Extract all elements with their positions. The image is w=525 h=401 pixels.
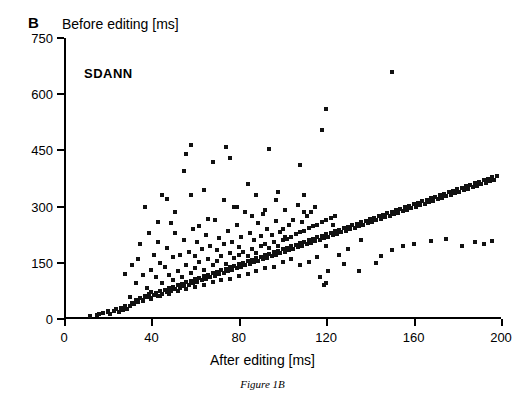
figure-panel: B Before editing [ms] SDANN 015030045060… [0, 0, 525, 401]
data-point [318, 275, 322, 279]
data-point [145, 286, 149, 290]
x-tick-mark [239, 319, 241, 326]
data-point [252, 238, 256, 242]
data-point [149, 268, 153, 272]
data-point [193, 254, 197, 258]
data-point [300, 220, 304, 224]
data-point [261, 212, 265, 216]
data-point [200, 247, 204, 251]
data-point [460, 244, 464, 248]
data-point [208, 244, 212, 248]
data-point [184, 263, 188, 267]
data-point [123, 272, 127, 276]
x-tick-label: 160 [403, 330, 425, 345]
data-point [171, 278, 175, 282]
data-point [357, 269, 361, 273]
data-point [337, 253, 341, 257]
data-point [248, 231, 252, 235]
data-point [243, 210, 247, 214]
data-point [160, 281, 164, 285]
data-point [163, 265, 167, 269]
data-point [237, 245, 241, 249]
data-point [184, 152, 188, 156]
y-tick-mark [57, 93, 64, 95]
data-point [173, 231, 177, 235]
data-point [265, 227, 269, 231]
data-point [152, 253, 156, 257]
x-axis-title: After editing [ms] [0, 352, 525, 368]
data-point [324, 107, 328, 111]
panel-title: Before editing [ms] [62, 16, 179, 32]
data-point [189, 271, 193, 275]
data-point [270, 233, 274, 237]
data-point [182, 169, 186, 173]
data-point [237, 274, 241, 278]
data-point [165, 197, 169, 201]
data-point [315, 255, 319, 259]
y-tick-label: 450 [31, 143, 53, 158]
data-point [171, 255, 175, 259]
data-point [193, 266, 197, 270]
y-tick-mark [57, 262, 64, 264]
y-axis-line [64, 38, 66, 319]
y-tick-mark [57, 37, 64, 39]
data-point [320, 128, 324, 132]
data-point [219, 278, 223, 282]
data-point [176, 289, 180, 293]
data-point [106, 309, 110, 313]
data-point [197, 260, 201, 264]
data-point [222, 198, 226, 202]
x-tick-label: 120 [315, 330, 337, 345]
data-point [206, 217, 210, 221]
y-tick-mark [57, 206, 64, 208]
data-point [302, 193, 306, 197]
data-point [379, 254, 383, 258]
data-point [296, 203, 300, 207]
figure-caption: Figure 1B [0, 378, 525, 390]
data-point [291, 218, 295, 222]
data-point [324, 244, 328, 248]
data-point [149, 296, 153, 300]
data-point [187, 250, 191, 254]
data-point [178, 253, 182, 257]
data-point [132, 301, 136, 305]
data-point [374, 261, 378, 265]
data-point [128, 295, 132, 299]
data-point [283, 235, 287, 239]
data-point [307, 260, 311, 264]
data-point [232, 256, 236, 260]
data-point [401, 244, 405, 248]
data-point [195, 240, 199, 244]
data-point [263, 208, 267, 212]
data-point [298, 163, 302, 167]
x-tick-label: 200 [490, 330, 512, 345]
data-point [219, 254, 223, 258]
x-tick-label: 80 [232, 330, 246, 345]
x-tick-mark [414, 319, 416, 326]
data-point [141, 299, 145, 303]
data-point [191, 227, 195, 231]
data-point [283, 208, 287, 212]
data-point [342, 262, 346, 266]
data-point [167, 273, 171, 277]
data-point [206, 257, 210, 261]
data-point [281, 260, 285, 264]
data-point [495, 174, 499, 178]
data-point [333, 214, 337, 218]
data-point [156, 240, 160, 244]
plot-annotation: SDANN [84, 66, 133, 81]
data-point [228, 156, 232, 160]
data-point [224, 145, 228, 149]
data-point [274, 219, 278, 223]
data-point [276, 190, 280, 194]
data-point [182, 238, 186, 242]
data-point [211, 160, 215, 164]
panel-letter: B [28, 14, 39, 31]
data-point [136, 257, 140, 261]
data-point [235, 205, 239, 209]
data-point [263, 266, 267, 270]
data-point [390, 70, 394, 74]
data-point [173, 210, 177, 214]
data-point [412, 242, 416, 246]
data-point [444, 237, 448, 241]
